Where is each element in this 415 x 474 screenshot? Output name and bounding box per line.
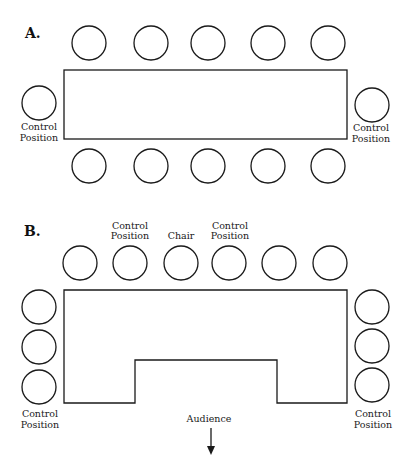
panel-a-top-seats [72,26,345,60]
panel-b-left-label-line1: Control [22,408,58,419]
chair-seat [164,246,198,280]
seat [191,26,225,60]
seat [134,149,168,183]
panel-b-top-seats [63,246,347,280]
seat [311,149,345,183]
panel-a-bottom-seats [72,149,345,183]
panel-a-right-label-line1: Control [353,122,389,133]
panel-a-left-label-line2: Position [20,132,58,143]
seat [313,246,347,280]
control-seat [355,368,389,402]
panel-b-right-label-line1: Control [355,408,391,419]
panel-b-label: B. [24,223,41,239]
panel-b: B. Control Position Chair Control Positi… [21,220,392,455]
seat [134,26,168,60]
control-seat [22,370,56,404]
seat [262,246,296,280]
down-arrow-icon [207,428,215,455]
panel-b-u-table [64,290,347,403]
panel-a-left-label-line1: Control [21,121,57,132]
control-seat [212,246,246,280]
seat [251,149,285,183]
seat [191,149,225,183]
audience-label: Audience [186,413,232,424]
panel-b-top-label-3-line2: Position [211,230,249,241]
seat [72,149,106,183]
panel-a-right-label-line2: Position [352,133,390,144]
seat [72,26,106,60]
seat [22,290,56,324]
seat [22,330,56,364]
seat [251,26,285,60]
panel-b-left-label-line2: Position [21,419,59,430]
seating-diagram: A. Control Position Control Position B. … [0,0,415,474]
panel-b-top-label-1-line2: Position [111,230,149,241]
panel-b-right-seats [355,290,389,402]
seat [311,26,345,60]
panel-b-chair-label: Chair [168,230,195,241]
control-seat [113,246,147,280]
panel-a-table [64,70,347,139]
seat [63,246,97,280]
panel-a-label: A. [24,25,41,41]
panel-b-right-label-line2: Position [354,419,392,430]
seat [355,290,389,324]
seat [355,329,389,363]
panel-a: A. Control Position Control Position [20,25,390,183]
panel-a-left-control-seat [22,86,56,120]
panel-b-left-seats [22,290,56,404]
panel-a-right-control-seat [355,88,389,122]
